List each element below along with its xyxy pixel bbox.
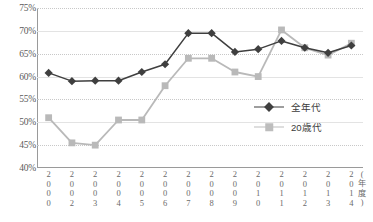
x-axis-tick-label: 2006 [154, 170, 176, 208]
square-marker-icon [232, 69, 239, 76]
square-marker-icon [45, 114, 52, 121]
square-marker-icon [69, 139, 76, 146]
x-axis-tick-label: 2007 [177, 170, 199, 208]
diamond-marker-icon [277, 37, 285, 45]
x-axis-ticks: 2000200220032004200520062007200820092010… [37, 170, 363, 218]
diamond-marker-icon [68, 77, 76, 85]
diamond-marker-icon [114, 77, 122, 85]
square-marker-icon [138, 117, 145, 124]
x-axis-tick-label: 2002 [61, 170, 83, 208]
square-marker-icon [208, 55, 215, 62]
axis-unit-char-1: 年 [355, 179, 369, 188]
diamond-marker-icon [264, 102, 274, 112]
square-marker-icon [162, 82, 169, 89]
diamond-marker-icon [138, 68, 146, 76]
legend-swatch-all-ages [252, 101, 286, 113]
x-axis-tick-label: 2013 [317, 170, 339, 208]
x-axis-tick-label: 2012 [294, 170, 316, 208]
square-marker-icon [278, 27, 285, 34]
x-axis-tick-label: 2003 [84, 170, 106, 208]
diamond-marker-icon [254, 45, 262, 53]
series-all-ages [45, 29, 356, 85]
x-axis-tick-label: 2005 [131, 170, 153, 208]
square-marker-icon [92, 142, 99, 149]
legend-label-all-ages: 全年代 [291, 100, 321, 114]
legend-swatch-twenties [252, 121, 286, 133]
chart-container: 75%70%65%60%55%50%45%40% 200020022003200… [0, 0, 373, 222]
x-axis-tick-label: 2009 [224, 170, 246, 208]
diamond-marker-icon [91, 77, 99, 85]
series-line [49, 33, 352, 81]
axis-unit-char-2: 度 [355, 189, 369, 198]
square-marker-icon [115, 117, 122, 124]
legend-label-twenties: 20歳代 [291, 120, 322, 134]
square-marker-icon [265, 123, 273, 131]
x-axis-unit-label: (年度) [355, 170, 369, 208]
square-marker-icon [185, 55, 192, 62]
legend-item-all-ages: 全年代 [252, 97, 364, 117]
x-axis-tick-label: 2011 [271, 170, 293, 208]
square-marker-icon [255, 73, 262, 80]
diamond-marker-icon [45, 69, 53, 77]
x-axis-tick-label: 2008 [201, 170, 223, 208]
x-axis-tick-label: 2010 [247, 170, 269, 208]
legend-item-twenties: 20歳代 [252, 117, 364, 137]
x-axis-tick-label: 2004 [108, 170, 130, 208]
chart-legend: 全年代 20歳代 [252, 97, 364, 137]
x-axis-tick-label: 2000 [38, 170, 60, 208]
